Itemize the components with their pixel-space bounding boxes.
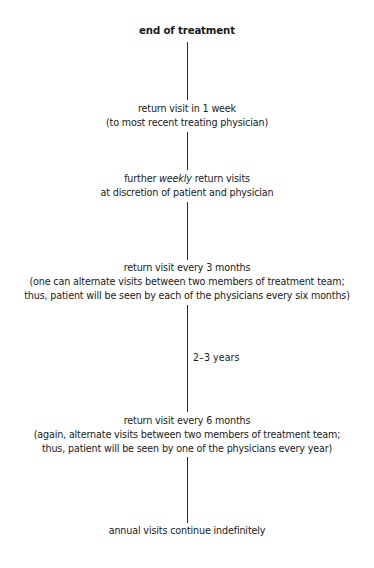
- node-weekly-visits: further weekly return visits at discreti…: [0, 172, 374, 200]
- connector-line: [187, 132, 188, 170]
- node-sublabel: (one can alternate visits between two me…: [0, 275, 374, 289]
- node-sublabel: (again, alternate visits between two mem…: [0, 428, 374, 442]
- node-return-3-months: return visit every 3 months (one can alt…: [0, 261, 374, 303]
- connector-line: [187, 305, 188, 412]
- node-end-of-treatment: end of treatment: [0, 24, 374, 38]
- node-sublabel: thus, patient will be seen by one of the…: [0, 442, 374, 456]
- node-sublabel: (to most recent treating physician): [0, 116, 374, 130]
- node-label: further weekly return visits: [0, 172, 374, 186]
- connector-line: [187, 457, 188, 523]
- node-sublabel: thus, patient will be seen by each of th…: [0, 289, 374, 303]
- node-label: return visit every 3 months: [0, 261, 374, 275]
- node-label: end of treatment: [0, 24, 374, 38]
- node-return-1-week: return visit in 1 week (to most recent t…: [0, 102, 374, 130]
- node-sublabel: at discretion of patient and physician: [0, 186, 374, 200]
- node-label: return visit in 1 week: [0, 102, 374, 116]
- node-annual-visits: annual visits continue indefinitely: [0, 524, 374, 538]
- node-label: annual visits continue indefinitely: [0, 524, 374, 538]
- connector-line: [187, 42, 188, 100]
- edge-label-duration: 2–3 years: [193, 351, 239, 365]
- node-return-6-months: return visit every 6 months (again, alte…: [0, 414, 374, 456]
- emphasis-weekly: weekly: [159, 173, 192, 184]
- connector-line: [187, 202, 188, 260]
- node-label: return visit every 6 months: [0, 414, 374, 428]
